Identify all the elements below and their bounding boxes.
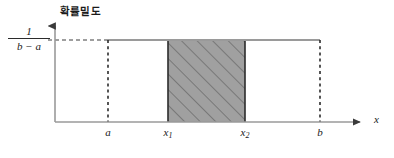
plot-canvas [0, 0, 394, 158]
x-tick-label-b: b [312, 127, 328, 138]
y-axis-density-value: 1 b − a [6, 26, 52, 52]
x-tick-label-x2: x2 [235, 127, 255, 140]
y-axis-title: 확률밀도 [60, 6, 101, 17]
x-tick-label-a: a [100, 127, 116, 138]
x-tick-x1-subscript: 1 [168, 131, 172, 140]
x-axis-name: x [374, 114, 379, 125]
x-tick-label-x1: x1 [158, 127, 178, 140]
density-numerator: 1 [6, 26, 52, 38]
density-denominator: b − a [6, 39, 52, 52]
uniform-distribution-figure: 확률밀도 1 b − a a x1 x2 b x [0, 0, 394, 158]
shaded-probability-region [168, 40, 245, 122]
x-tick-x2-subscript: 2 [245, 131, 249, 140]
